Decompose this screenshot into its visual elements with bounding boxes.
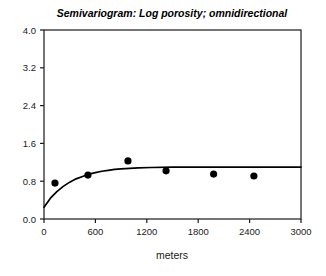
x-tick-label-1200: 1200 — [136, 226, 157, 237]
data-point — [210, 171, 217, 178]
x-axis-title: meters — [156, 249, 188, 261]
y-tick-label-0.0: 0.0 — [23, 214, 36, 225]
data-point — [250, 172, 257, 179]
data-point — [124, 157, 131, 164]
x-tick-label-0: 0 — [41, 226, 46, 237]
x-tick-label-600: 600 — [87, 226, 103, 237]
y-tick-label-4.0: 4.0 — [23, 25, 36, 36]
y-tick-label-0.8: 0.8 — [23, 176, 36, 187]
chart-canvas: Semivariogram: Log porosity; omnidirecti… — [0, 0, 326, 276]
data-point — [162, 167, 169, 174]
figure-background — [0, 0, 326, 276]
data-point — [51, 179, 58, 186]
y-tick-label-3.2: 3.2 — [23, 62, 36, 73]
x-tick-label-1800: 1800 — [188, 226, 209, 237]
y-tick-label-1.6: 1.6 — [23, 138, 36, 149]
data-point — [84, 171, 91, 178]
semivariogram-figure: Semivariogram: Log porosity; omnidirecti… — [0, 0, 326, 276]
x-tick-label-2400: 2400 — [239, 226, 260, 237]
x-tick-label-3000: 3000 — [290, 226, 311, 237]
chart-title: Semivariogram: Log porosity; omnidirecti… — [57, 7, 289, 19]
y-tick-label-2.4: 2.4 — [23, 100, 36, 111]
